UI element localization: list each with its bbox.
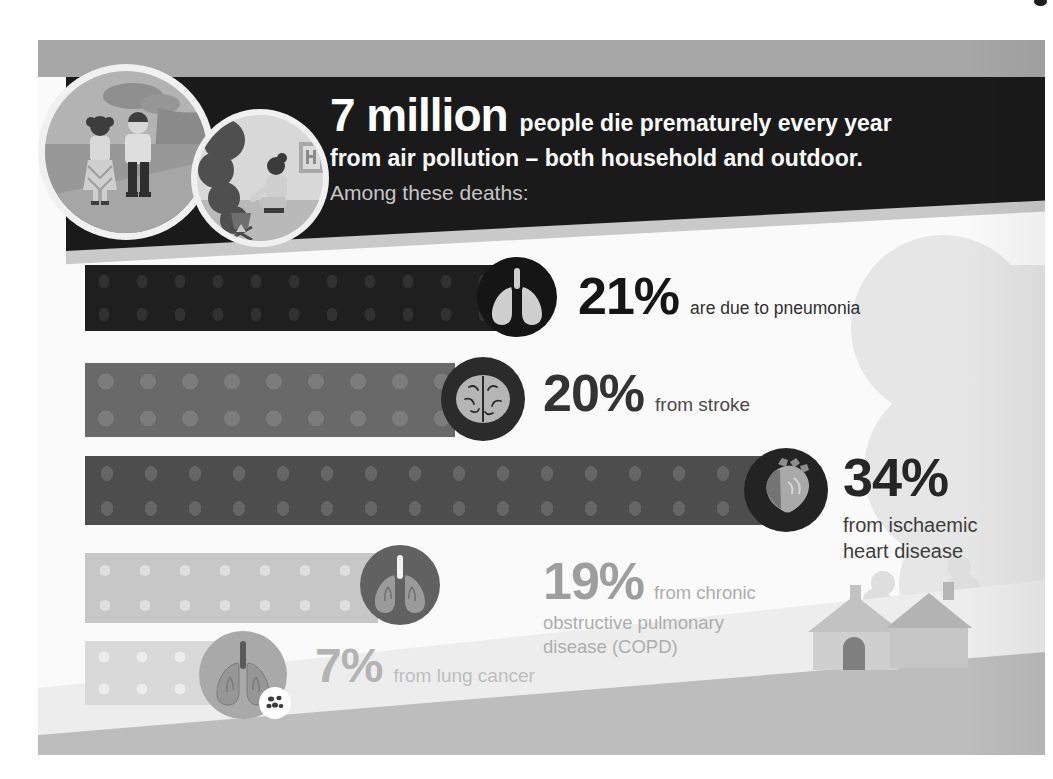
stroke-label: from stroke bbox=[655, 394, 750, 416]
cancer-cells-icon bbox=[259, 687, 291, 719]
air-pollution-infographic: 7 million people die prematurely every y… bbox=[38, 40, 1045, 755]
subheadline: Among these deaths: bbox=[330, 181, 990, 205]
lungs-copd-icon bbox=[360, 545, 440, 625]
header-text: 7 million people die prematurely every y… bbox=[330, 88, 990, 205]
copd-label-line2: obstructive pulmonary bbox=[543, 611, 793, 635]
lung-cancer-label: from lung cancer bbox=[393, 665, 535, 687]
heart-disease-percentage: 34% bbox=[843, 446, 977, 508]
copd-label-line3: disease (COPD) bbox=[543, 635, 793, 659]
stat-lung-cancer: 7% from lung cancer bbox=[315, 638, 535, 693]
bar-heart-disease bbox=[85, 456, 763, 525]
lung-cancer-percentage: 7% bbox=[315, 638, 382, 693]
brain-icon bbox=[441, 357, 525, 441]
heart-disease-label-line2: heart disease bbox=[843, 538, 977, 564]
stat-stroke: 20% from stroke bbox=[543, 363, 750, 423]
bar-copd bbox=[85, 553, 378, 623]
headline-rest: people die prematurely every year bbox=[520, 110, 892, 137]
heart-icon bbox=[744, 448, 828, 532]
heart-disease-label-line1: from ischaemic bbox=[843, 512, 977, 538]
lungs-icon bbox=[477, 257, 557, 337]
bar-pneumonia bbox=[85, 265, 497, 331]
stat-heart-disease: 34% from ischaemic heart disease bbox=[843, 446, 977, 564]
copd-label-line1: from chronic bbox=[654, 581, 756, 605]
outdoor-air-pollution-illustration bbox=[38, 64, 214, 264]
pneumonia-label: are due to pneumonia bbox=[690, 298, 860, 319]
household-cooking-smoke-illustration bbox=[191, 109, 329, 250]
bar-stroke bbox=[85, 363, 455, 437]
stroke-percentage: 20% bbox=[543, 363, 644, 423]
headline-line2: from air pollution – both household and … bbox=[330, 145, 990, 172]
stat-pneumonia: 21% are due to pneumonia bbox=[578, 266, 860, 326]
cause-illustrations bbox=[38, 48, 368, 273]
copd-percentage: 19% bbox=[543, 551, 644, 611]
scanned-page: 7 million people die prematurely every y… bbox=[0, 0, 1053, 779]
houses-with-smoking-chimneys bbox=[808, 582, 972, 670]
stat-copd: 19% from chronic obstructive pulmonary d… bbox=[543, 551, 793, 659]
page-corner-print-artifact bbox=[1034, 0, 1047, 6]
pneumonia-percentage: 21% bbox=[578, 266, 679, 326]
